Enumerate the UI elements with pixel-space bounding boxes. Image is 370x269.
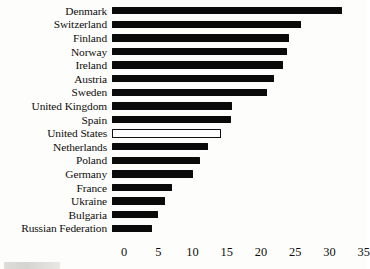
- category-label: United Kingdom: [0, 100, 112, 112]
- chart-row: Denmark: [0, 4, 367, 18]
- bar-ukraine: [112, 197, 165, 204]
- x-tick-label: 30: [323, 245, 335, 259]
- bar-switzerland: [112, 21, 301, 28]
- chart-row: Ireland: [0, 58, 367, 72]
- x-tick-label: 10: [186, 245, 198, 259]
- bar-track: [112, 31, 367, 45]
- x-tick-label: 35: [358, 245, 370, 259]
- bar-united-states-highlighted: [112, 129, 221, 138]
- x-tick-label: 20: [255, 245, 267, 259]
- bar-sweden: [112, 89, 267, 96]
- bar-track: [112, 126, 367, 140]
- x-tick-label: 25: [289, 245, 301, 259]
- caption-fragment: [4, 262, 60, 269]
- category-label: Bulgaria: [0, 209, 112, 221]
- x-tick-label: 15: [221, 245, 233, 259]
- bar-track: [112, 140, 367, 154]
- bar-united-kingdom: [112, 102, 232, 109]
- bar-finland: [112, 34, 289, 41]
- category-label: United States: [0, 127, 112, 139]
- chart-row: Netherlands: [0, 140, 367, 154]
- bar-austria: [112, 75, 274, 82]
- x-tick-label: 5: [155, 245, 161, 259]
- bar-track: [112, 99, 367, 113]
- bar-track: [112, 154, 367, 168]
- bar-track: [112, 72, 367, 86]
- chart-row: Bulgaria: [0, 208, 367, 222]
- chart-row: Norway: [0, 45, 367, 59]
- bar-france: [112, 184, 172, 191]
- category-label: Denmark: [0, 5, 112, 17]
- bar-track: [112, 58, 367, 72]
- bar-spain: [112, 116, 231, 123]
- category-label: Ireland: [0, 59, 112, 71]
- category-label: Norway: [0, 46, 112, 58]
- chart-row: Sweden: [0, 86, 367, 100]
- bar-germany: [112, 170, 193, 177]
- x-tick-label: 0: [121, 245, 127, 259]
- bar-track: [112, 86, 367, 100]
- category-label: Ukraine: [0, 195, 112, 207]
- bar-track: [112, 181, 367, 195]
- chart-row: Switzerland: [0, 18, 367, 32]
- bar-track: [112, 4, 367, 18]
- chart-row: Austria: [0, 72, 367, 86]
- category-label: Switzerland: [0, 18, 112, 30]
- category-label: Poland: [0, 154, 112, 166]
- category-label: Russian Federation: [0, 222, 112, 234]
- category-label: Germany: [0, 168, 112, 180]
- chart-row: United States: [0, 126, 367, 140]
- bar-track: [112, 222, 367, 236]
- bar-norway: [112, 48, 287, 55]
- chart-row: Spain: [0, 113, 367, 127]
- bar-ireland: [112, 61, 283, 68]
- chart-row: Finland: [0, 31, 367, 45]
- chart-row: Germany: [0, 167, 367, 181]
- chart-row: France: [0, 181, 367, 195]
- bar-russian-federation: [112, 225, 152, 232]
- bar-track: [112, 167, 367, 181]
- category-label: Austria: [0, 73, 112, 85]
- bar-denmark: [112, 7, 342, 14]
- chart-row: United Kingdom: [0, 99, 367, 113]
- bar-netherlands: [112, 143, 208, 150]
- category-label: Finland: [0, 32, 112, 44]
- bar-poland: [112, 157, 200, 164]
- category-label: Sweden: [0, 86, 112, 98]
- chart-row: Poland: [0, 154, 367, 168]
- chart-plot-area: Denmark Switzerland Finland Norway Irela…: [0, 4, 367, 235]
- bar-track: [112, 194, 367, 208]
- bar-track: [112, 113, 367, 127]
- category-label: France: [0, 182, 112, 194]
- chart-row: Ukraine: [0, 194, 367, 208]
- chart-row: Russian Federation: [0, 222, 367, 236]
- category-label: Spain: [0, 114, 112, 126]
- bar-track: [112, 45, 367, 59]
- bar-bulgaria: [112, 211, 158, 218]
- bar-track: [112, 18, 367, 32]
- bar-track: [112, 208, 367, 222]
- category-label: Netherlands: [0, 141, 112, 153]
